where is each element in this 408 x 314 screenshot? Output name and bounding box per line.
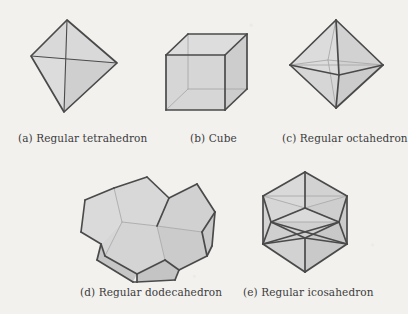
caption-tetrahedron: (a) Regular tetrahedron (18, 132, 147, 144)
solid-tetrahedron (18, 12, 128, 122)
caption-icosahedron: (e) Regular icosahedron (243, 286, 374, 298)
solid-icosahedron (243, 160, 368, 285)
solid-dodecahedron (75, 160, 200, 285)
caption-octahedron: (c) Regular octahedron (282, 132, 408, 144)
caption-dodecahedron: (d) Regular dodecahedron (80, 286, 222, 298)
solid-cube (155, 12, 265, 122)
caption-cube: (b) Cube (190, 132, 237, 144)
solid-octahedron (282, 12, 392, 122)
